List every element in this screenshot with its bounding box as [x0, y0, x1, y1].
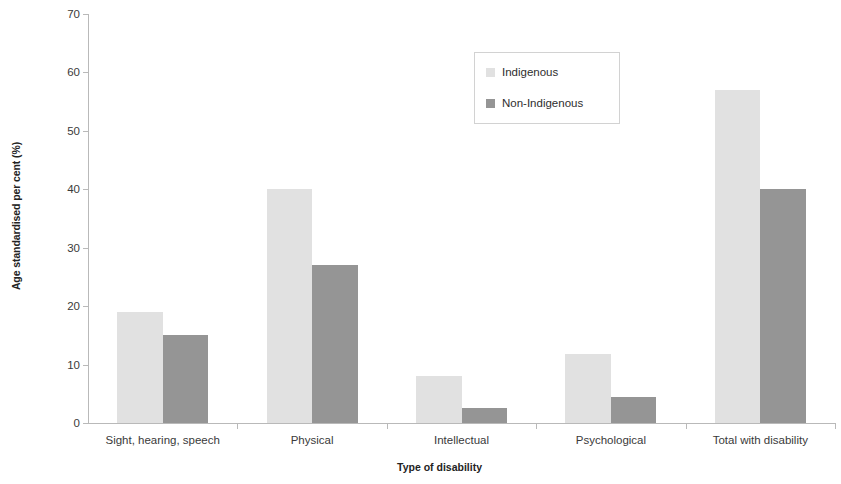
bar-indigenous-0: [117, 312, 163, 423]
x-axis-tick-mark: [237, 423, 238, 429]
x-axis-category-label: Sight, hearing, speech: [105, 434, 219, 446]
y-axis-tick-label: 20: [42, 300, 80, 312]
y-axis-tick-mark: [83, 306, 88, 307]
y-axis-tick-label: 60: [42, 66, 80, 78]
x-axis-category-label: Total with disability: [713, 434, 808, 446]
bar-non-indigenous-1: [312, 265, 358, 423]
x-axis-tick-mark: [387, 423, 388, 429]
legend-item-non-indigenous: Non-Indigenous: [486, 97, 583, 109]
x-axis-category-label: Psychological: [576, 434, 646, 446]
bar-non-indigenous-4: [760, 189, 806, 423]
bar-non-indigenous-3: [611, 397, 657, 423]
y-axis-tick-mark: [83, 248, 88, 249]
bar-non-indigenous-0: [163, 335, 209, 423]
legend-label-0: Indigenous: [502, 66, 558, 78]
y-axis-tick-label: 10: [42, 359, 80, 371]
bar-indigenous-3: [565, 354, 611, 423]
legend-item-indigenous: Indigenous: [486, 66, 558, 78]
x-axis-tick-mark: [686, 423, 687, 429]
y-axis-tick-label: 40: [42, 183, 80, 195]
legend-label-1: Non-Indigenous: [502, 97, 583, 109]
x-axis-category-label: Physical: [291, 434, 334, 446]
x-axis-line: [88, 423, 835, 424]
y-axis-tick-mark: [83, 189, 88, 190]
y-axis-tick-mark: [83, 72, 88, 73]
plot-area: 010203040506070 Sight, hearing, speechPh…: [88, 14, 835, 424]
x-axis-title: Type of disability: [0, 461, 841, 473]
legend-swatch-icon-0: [486, 68, 495, 77]
y-axis-tick-mark: [83, 131, 88, 132]
y-axis-tick-mark: [83, 423, 88, 424]
y-axis-tick-label: 0: [42, 417, 80, 429]
bar-indigenous-1: [267, 189, 313, 423]
y-axis-tick-label: 50: [42, 125, 80, 137]
bar-non-indigenous-2: [462, 408, 508, 423]
y-axis-tick-label: 30: [42, 242, 80, 254]
x-axis-tick-mark: [536, 423, 537, 429]
y-axis-title: Age standardised per cent (%): [10, 106, 22, 326]
y-axis-line: [88, 14, 89, 424]
bar-indigenous-4: [715, 90, 761, 423]
y-axis-tick-mark: [83, 365, 88, 366]
bar-chart-figure: Age standardised per cent (%) Type of di…: [0, 0, 841, 484]
legend-swatch-icon-1: [486, 99, 495, 108]
chart-legend: Indigenous Non-Indigenous: [474, 52, 620, 124]
y-axis-tick-mark: [83, 14, 88, 15]
y-axis-tick-label: 70: [42, 8, 80, 20]
bar-indigenous-2: [416, 376, 462, 423]
x-axis-category-label: Intellectual: [434, 434, 489, 446]
x-axis-tick-mark: [835, 423, 836, 429]
